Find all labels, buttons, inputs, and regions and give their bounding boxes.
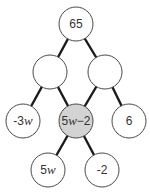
node-label: 65: [69, 17, 83, 31]
number-tree-diagram: 65-3w5w−265w-2: [0, 0, 150, 196]
node-label: 5w: [40, 162, 56, 177]
node-label: 5w−2: [61, 113, 90, 128]
node-label: 6: [126, 114, 133, 128]
node-row3-right: 6: [112, 104, 146, 138]
node-circle: [33, 55, 67, 89]
node-top: 65: [59, 7, 93, 41]
node-row3-center: 5w−2: [59, 104, 93, 138]
nodes: 65-3w5w−265w-2: [6, 7, 146, 187]
node-label: -3w: [13, 113, 33, 128]
node-mid-left: [33, 55, 67, 89]
node-row3-left: -3w: [6, 104, 40, 138]
node-circle: [88, 55, 122, 89]
node-bottom-left: 5w: [31, 153, 65, 187]
node-bottom-right: -2: [85, 153, 119, 187]
node-label: -2: [97, 163, 108, 177]
node-mid-right: [88, 55, 122, 89]
edges: [23, 24, 129, 170]
